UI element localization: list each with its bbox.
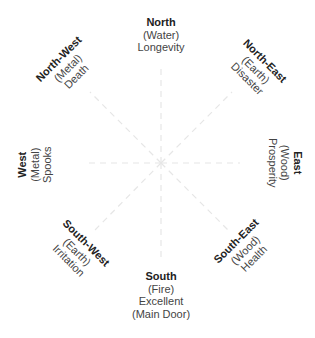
direction-meaning: Prosperity (266, 138, 279, 188)
direction-element: (Water) (138, 29, 185, 42)
direction-label-east: East (Wood) Prosperity (266, 138, 304, 188)
direction-name: West (15, 146, 28, 183)
direction-meaning: Excellent (132, 295, 190, 308)
direction-note: (Main Door) (132, 308, 190, 321)
direction-name: East (291, 138, 304, 188)
direction-name: South (132, 270, 190, 283)
direction-element: (Metal) (28, 146, 41, 183)
direction-label-north: North (Water) Longevity (138, 16, 185, 54)
direction-name: North (138, 16, 185, 29)
direction-meaning: Longevity (138, 41, 185, 54)
direction-label-south: South (Fire) Excellent (Main Door) (132, 270, 190, 320)
direction-element: (Fire) (132, 283, 190, 296)
radial-line-south-east (161, 163, 228, 230)
radial-line-south-west (95, 163, 161, 230)
direction-label-west: West (Metal) Spooks (15, 146, 53, 183)
direction-element: (Wood) (279, 138, 292, 188)
radial-line-north-east (161, 92, 232, 163)
radial-line-north-west (90, 92, 161, 163)
direction-meaning: Spooks (40, 146, 53, 183)
